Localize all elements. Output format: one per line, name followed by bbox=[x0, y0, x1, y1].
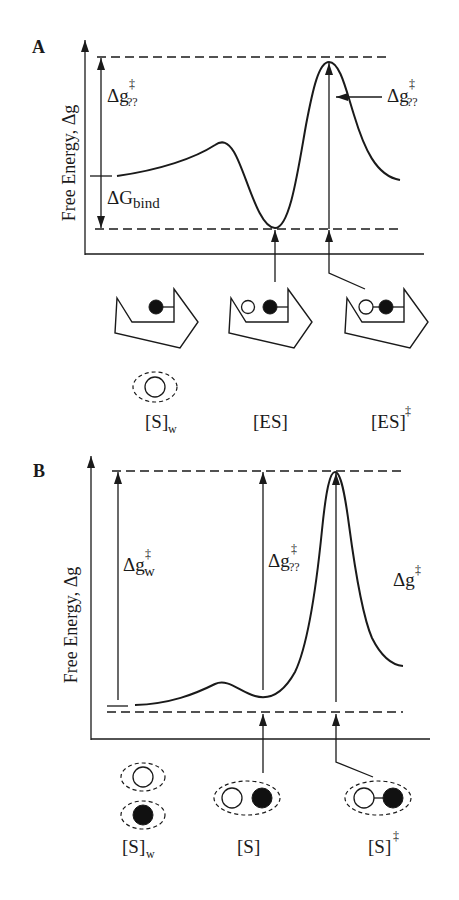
state-label-main: [S] bbox=[237, 836, 260, 857]
solvated-pair bbox=[214, 781, 280, 815]
right-barrier-main: Δg bbox=[393, 569, 415, 590]
mid-barrier-main: Δg bbox=[268, 550, 290, 571]
solvated-separate-species bbox=[121, 763, 165, 829]
water-barrier-sup: ‡ bbox=[145, 547, 151, 561]
panel-a-barrier-right-label: Δg ‡ ?? bbox=[387, 71, 420, 109]
barrier-right-sup: ‡ bbox=[409, 77, 415, 91]
panel-a-y-axis-label: Free Energy, Δg bbox=[59, 105, 79, 222]
solvated-transition-state bbox=[345, 781, 411, 815]
catalytic-group-dot bbox=[379, 300, 393, 314]
state-label-main: [S] bbox=[368, 836, 391, 857]
panel-b-right-barrier-label: Δg ‡ bbox=[393, 563, 421, 590]
state-label-main: [S] bbox=[122, 836, 145, 857]
panel-b-energy-curve bbox=[135, 472, 403, 705]
panel-a-binding-label: ΔG bind bbox=[107, 187, 160, 211]
state-label-sub: w bbox=[146, 847, 155, 861]
panel-b-mid-barrier-label: Δg ‡ ?? bbox=[268, 536, 302, 574]
panel-a-barrier-left-label: Δg ‡ ?? bbox=[107, 71, 140, 109]
binding-main: ΔG bbox=[107, 187, 133, 208]
catalytic-group-dot bbox=[149, 300, 163, 314]
panel-a-label: A bbox=[32, 37, 45, 57]
barrier-right-sub: ?? bbox=[407, 95, 418, 109]
panel-a: A Free Energy, Δg Δg ‡ ?? ΔG bind Δg ‡ ?… bbox=[32, 37, 428, 436]
mid-barrier-sup: ‡ bbox=[291, 542, 297, 556]
barrier-right-main: Δg bbox=[387, 85, 409, 106]
panel-b-ts-pointer-arrow bbox=[336, 714, 373, 777]
enzyme-shape bbox=[345, 289, 428, 348]
panel-b-state-label-s-ts: [S] ‡ bbox=[368, 829, 399, 857]
panel-b-state-label-s: [S] bbox=[237, 836, 260, 857]
barrier-left-sub: ?? bbox=[127, 95, 138, 109]
enzyme-shape bbox=[229, 289, 312, 348]
solvated-substrate bbox=[133, 372, 177, 402]
substrate-circle bbox=[145, 377, 165, 397]
reactant-dot bbox=[133, 805, 153, 825]
panel-b-label: B bbox=[33, 461, 45, 481]
water-barrier-sub: w bbox=[144, 563, 155, 579]
panel-a-ts-pointer-arrow bbox=[329, 230, 365, 289]
substrate-circle bbox=[354, 788, 374, 808]
state-label-main: [S] bbox=[145, 411, 168, 432]
state-label-main: [ES] bbox=[371, 411, 406, 432]
enzyme-transition-state bbox=[345, 289, 428, 348]
free-energy-diagram: A Free Energy, Δg Δg ‡ ?? ΔG bind Δg ‡ ?… bbox=[0, 0, 459, 900]
panel-a-state-label-sw: [S] w bbox=[145, 411, 177, 436]
catalytic-group-dot bbox=[263, 300, 277, 314]
water-barrier-main: Δg bbox=[123, 554, 145, 575]
enzyme-free bbox=[115, 289, 198, 348]
enzyme-substrate-complex bbox=[229, 289, 312, 348]
barrier-left-main: Δg bbox=[107, 85, 129, 106]
substrate-circle bbox=[222, 788, 242, 808]
state-label-sup: ‡ bbox=[393, 829, 399, 843]
reactant-dot bbox=[252, 788, 272, 808]
state-label-main: [ES] bbox=[253, 411, 288, 432]
panel-a-state-label-es-ts: [ES] ‡ bbox=[371, 404, 411, 432]
enzyme-shape bbox=[115, 289, 198, 348]
reactant-dot bbox=[383, 788, 403, 808]
state-label-sub: w bbox=[168, 422, 177, 436]
mid-barrier-sub: ?? bbox=[289, 560, 300, 574]
panel-a-state-label-es: [ES] bbox=[253, 411, 288, 432]
state-label-sup: ‡ bbox=[405, 404, 411, 418]
substrate-circle bbox=[242, 301, 255, 314]
panel-b-water-barrier-label: Δg ‡ w bbox=[123, 541, 156, 579]
panel-b: B Free Energy, Δg Δg ‡ w Δg ‡ ?? Δg ‡ bbox=[33, 456, 430, 861]
substrate-circle bbox=[359, 300, 373, 314]
panel-b-state-label-sw: [S] w bbox=[122, 836, 155, 861]
substrate-circle bbox=[133, 767, 153, 787]
panel-b-y-axis-label: Free Energy, Δg bbox=[61, 567, 81, 684]
right-barrier-sup: ‡ bbox=[415, 563, 421, 577]
barrier-left-sup: ‡ bbox=[129, 77, 135, 91]
binding-sub: bind bbox=[133, 195, 160, 211]
